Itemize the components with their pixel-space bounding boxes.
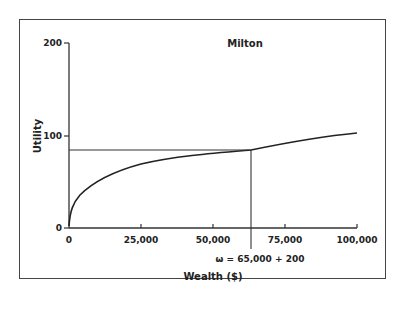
y-axis-label: Utility: [32, 118, 43, 153]
x-tick-100000: 100,000: [337, 235, 378, 245]
x-tick-75000: 75,000: [268, 235, 303, 245]
y-tick-100: 100: [43, 131, 62, 141]
utility-curve: [69, 133, 357, 226]
x-tick-50000: 50,000: [196, 235, 231, 245]
chart-title: Milton: [227, 38, 263, 49]
annotation-text: ω = 65,000 + 200: [216, 254, 305, 264]
x-tick-25000: 25,000: [124, 235, 159, 245]
x-axis-label: Wealth ($): [183, 271, 242, 282]
y-tick-200: 200: [43, 38, 62, 48]
utility-chart: Milton 200 100 0 Utility 0 25,000 50,000…: [0, 0, 411, 310]
x-tick-0: 0: [66, 235, 72, 245]
y-tick-0: 0: [56, 223, 62, 233]
